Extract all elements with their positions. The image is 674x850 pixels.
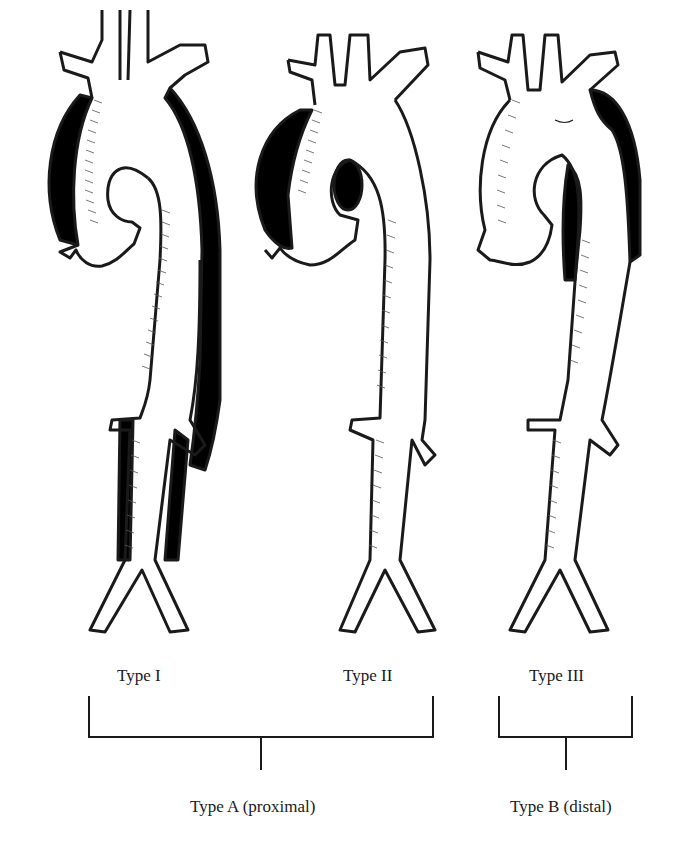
panel-label-type-2: Type II [343, 666, 392, 686]
aorta-illustration-type-2 [240, 0, 450, 640]
panel-label-type-3: Type III [529, 666, 584, 686]
entry-tear-arrow-icon [555, 120, 573, 123]
group-label-type-a: Type A (proximal) [190, 797, 315, 817]
aorta-illustration-type-3 [450, 0, 660, 640]
panel-label-type-1: Type I [117, 666, 161, 686]
group-label-type-b: Type B (distal) [510, 797, 612, 817]
aorta-illustration-type-1 [30, 0, 240, 640]
